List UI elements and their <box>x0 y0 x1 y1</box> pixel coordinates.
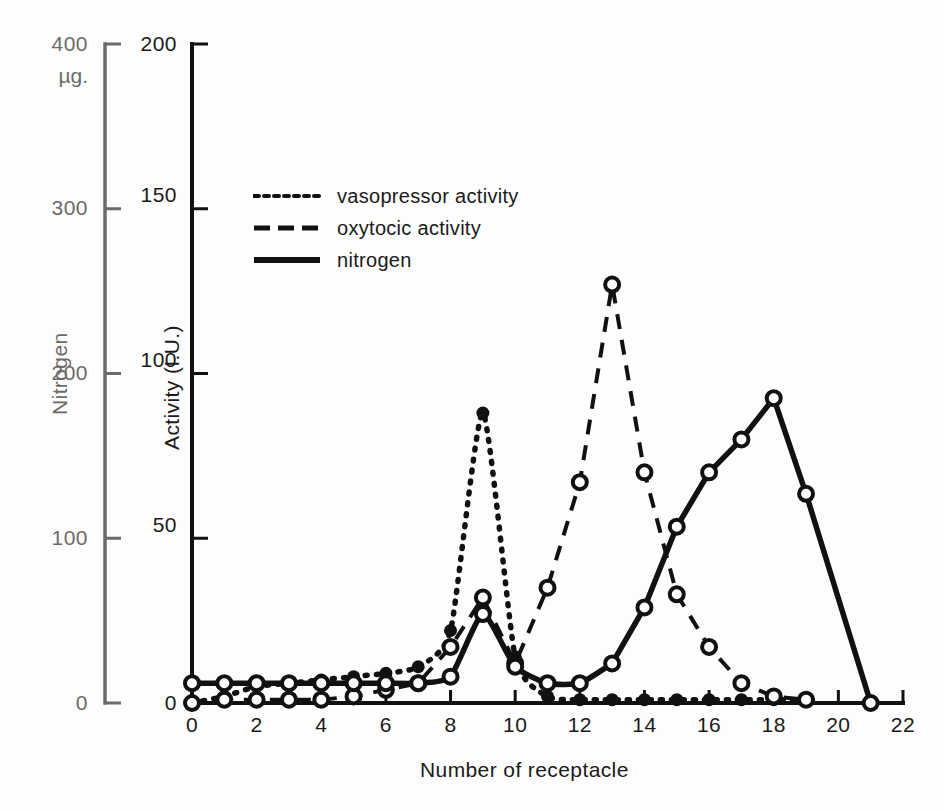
legend-label-oxytocic: oxytocic activity <box>337 217 481 240</box>
datapoint-oxytocic-18 <box>767 689 781 703</box>
datapoint-nitrogen-14 <box>637 600 651 614</box>
datapoint-vasopressor-8 <box>444 624 457 637</box>
nitrogen-unit-label: µg. <box>58 64 88 88</box>
datapoint-nitrogen-11 <box>541 676 555 690</box>
chromatography-figure: 400 µg. 300 200 100 0 Nitrogen 200 150 1… <box>0 0 944 811</box>
activity-axis-title: Activity (I.U.) <box>160 325 184 450</box>
activity-tick-150: 150 <box>140 183 177 207</box>
datapoint-nitrogen-12 <box>573 676 587 690</box>
activity-tick-50: 50 <box>153 513 177 537</box>
x-tick-label-22: 22 <box>891 713 915 737</box>
datapoint-nitrogen-9 <box>476 607 490 621</box>
datapoint-oxytocic-0 <box>185 696 199 710</box>
datapoint-oxytocic-1 <box>217 693 231 707</box>
activity-tick-200: 200 <box>140 32 177 56</box>
legend-item-nitrogen: nitrogen <box>253 244 519 276</box>
datapoint-nitrogen-18 <box>767 391 781 405</box>
datapoint-oxytocic-3 <box>282 693 296 707</box>
datapoint-vasopressor-12 <box>573 693 586 706</box>
datapoint-nitrogen-13 <box>605 656 619 670</box>
legend-label-vasopressor: vasopressor activity <box>337 185 519 208</box>
datapoint-oxytocic-17 <box>734 676 748 690</box>
plot-canvas <box>0 0 944 811</box>
x-tick-label-6: 6 <box>380 713 392 737</box>
datapoint-nitrogen-16 <box>702 465 716 479</box>
datapoint-oxytocic-16 <box>702 640 716 654</box>
datapoint-vasopressor-14 <box>638 693 651 706</box>
x-tick-label-10: 10 <box>503 713 527 737</box>
datapoint-oxytocic-2 <box>250 693 264 707</box>
datapoint-nitrogen-4 <box>314 676 328 690</box>
datapoint-oxytocic-14 <box>637 465 651 479</box>
nitrogen-tick-0: 0 <box>76 691 88 715</box>
activity-tick-0: 0 <box>165 691 177 715</box>
datapoint-vasopressor-7 <box>412 660 425 673</box>
datapoint-oxytocic-4 <box>314 693 328 707</box>
datapoint-vasopressor-16 <box>703 693 716 706</box>
datapoint-nitrogen-7 <box>411 676 425 690</box>
series-group <box>185 278 878 710</box>
legend-swatch-solid <box>253 254 321 266</box>
nitrogen-tick-100: 100 <box>51 526 88 550</box>
datapoint-oxytocic-12 <box>573 475 587 489</box>
series-line-vasopressor <box>192 413 806 703</box>
x-tick-label-14: 14 <box>632 713 656 737</box>
x-tick-label-16: 16 <box>697 713 721 737</box>
legend-item-vasopressor: vasopressor activity <box>253 180 519 212</box>
datapoint-oxytocic-19 <box>799 693 813 707</box>
datapoint-nitrogen-2 <box>250 676 264 690</box>
nitrogen-tick-400: 400 <box>51 32 88 56</box>
datapoint-oxytocic-8 <box>444 640 458 654</box>
datapoint-nitrogen-10 <box>508 660 522 674</box>
datapoint-oxytocic-15 <box>670 587 684 601</box>
datapoint-oxytocic-9 <box>476 591 490 605</box>
datapoint-oxytocic-13 <box>605 278 619 292</box>
x-tick-label-12: 12 <box>568 713 592 737</box>
x-axis-title: Number of receptacle <box>420 758 629 782</box>
legend: vasopressor activity oxytocic activity n… <box>253 180 519 276</box>
datapoint-nitrogen-15 <box>670 520 684 534</box>
x-tick-label-18: 18 <box>762 713 786 737</box>
datapoint-oxytocic-11 <box>541 581 555 595</box>
datapoint-vasopressor-15 <box>670 693 683 706</box>
datapoint-nitrogen-5 <box>347 676 361 690</box>
axes-group <box>105 44 903 703</box>
legend-swatch-dashed <box>253 222 321 234</box>
legend-label-nitrogen: nitrogen <box>337 249 412 272</box>
series-line-nitrogen <box>192 398 871 703</box>
nitrogen-axis-title: Nitrogen <box>48 332 72 415</box>
x-tick-label-2: 2 <box>251 713 263 737</box>
datapoint-nitrogen-17 <box>734 432 748 446</box>
datapoint-vasopressor-17 <box>735 693 748 706</box>
datapoint-nitrogen-20 <box>864 696 878 710</box>
datapoint-nitrogen-1 <box>217 676 231 690</box>
datapoint-nitrogen-19 <box>799 487 813 501</box>
datapoint-vasopressor-9 <box>476 407 489 420</box>
datapoint-nitrogen-3 <box>282 676 296 690</box>
x-tick-label-0: 0 <box>186 713 198 737</box>
legend-swatch-dotted <box>253 190 321 202</box>
datapoint-nitrogen-0 <box>185 676 199 690</box>
datapoint-nitrogen-8 <box>444 670 458 684</box>
datapoint-vasopressor-13 <box>606 693 619 706</box>
legend-item-oxytocic: oxytocic activity <box>253 212 519 244</box>
x-tick-label-8: 8 <box>444 713 456 737</box>
x-tick-label-4: 4 <box>315 713 327 737</box>
datapoint-nitrogen-6 <box>379 676 393 690</box>
x-tick-label-20: 20 <box>826 713 850 737</box>
nitrogen-tick-300: 300 <box>51 196 88 220</box>
